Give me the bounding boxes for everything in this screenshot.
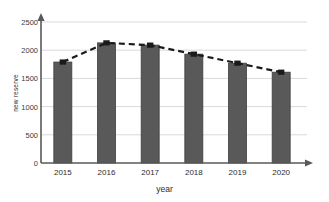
data-point-marker: [278, 70, 284, 75]
y-axis-title: new reserve: [12, 74, 19, 112]
y-axis-title-wrap: new reserve: [8, 62, 22, 124]
bar: [272, 72, 290, 163]
bar: [185, 54, 203, 163]
bar: [54, 62, 72, 163]
x-axis-tick-label: 2015: [54, 168, 72, 177]
y-axis-tick-label: 2000: [12, 46, 38, 55]
bar: [229, 63, 247, 163]
data-point-marker: [103, 40, 109, 45]
data-point-marker: [60, 59, 66, 64]
y-axis-tick-label: 2500: [12, 18, 38, 27]
x-axis-tick-label: 2016: [98, 168, 116, 177]
data-point-marker: [147, 43, 153, 48]
y-axis-arrow: [37, 13, 44, 21]
data-point-marker: [234, 61, 240, 66]
y-axis-tick-label: 500: [12, 130, 38, 139]
y-axis-tick-label: 0: [12, 159, 38, 168]
x-axis-tick-label: 2017: [141, 168, 159, 177]
x-axis-tick-label: 2018: [185, 168, 203, 177]
bar: [141, 45, 159, 163]
x-axis-arrow: [305, 159, 313, 166]
chart-container: 05001000150020002500 2015201620172018201…: [0, 0, 329, 202]
data-point-marker: [191, 52, 197, 57]
x-axis-tick-label: 2020: [272, 168, 290, 177]
x-axis-tick-label: 2019: [229, 168, 247, 177]
trend-line: [63, 43, 281, 72]
bar: [98, 43, 116, 163]
x-axis-title: year: [0, 184, 329, 194]
